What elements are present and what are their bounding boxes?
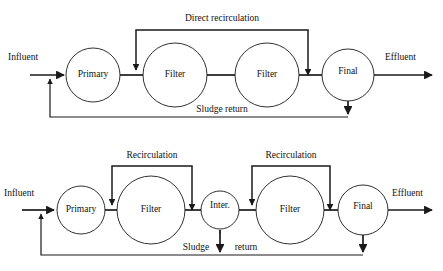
label-sludge-return-top: Sludge return bbox=[196, 104, 248, 114]
label-recirculation-first: Recirculation bbox=[126, 150, 177, 160]
unit-label-primary: Primary bbox=[78, 69, 109, 79]
unit-label-primary: Primary bbox=[66, 204, 97, 214]
unit-label-final: Final bbox=[353, 201, 373, 211]
flowsheet-canvas: Primary Filter Filter Final Influent Eff… bbox=[0, 0, 443, 271]
unit-label-filter-second: Filter bbox=[257, 69, 278, 79]
diagram-bottom: Primary Filter Inter. Filter Final Influ… bbox=[4, 150, 432, 255]
unit-label-filter-first: Filter bbox=[165, 69, 186, 79]
label-return-word: return bbox=[235, 242, 258, 252]
label-direct-recirculation: Direct recirculation bbox=[185, 13, 259, 23]
unit-label-final: Final bbox=[338, 66, 358, 76]
label-effluent-top: Effluent bbox=[385, 52, 416, 62]
unit-label-filter-second: Filter bbox=[280, 204, 301, 214]
label-effluent-bottom: Effluent bbox=[392, 188, 423, 198]
label-recirculation-second: Recirculation bbox=[265, 150, 316, 160]
label-influent-top: Influent bbox=[8, 52, 38, 62]
label-sludge-word: Sludge bbox=[183, 242, 209, 252]
diagram-top: Primary Filter Filter Final Influent Eff… bbox=[8, 13, 432, 117]
label-influent-bottom: Influent bbox=[4, 188, 34, 198]
process-flow-diagram-figure: Primary Filter Filter Final Influent Eff… bbox=[0, 0, 443, 271]
unit-label-intermediate: Inter. bbox=[210, 200, 230, 210]
unit-label-filter-first: Filter bbox=[141, 204, 162, 214]
